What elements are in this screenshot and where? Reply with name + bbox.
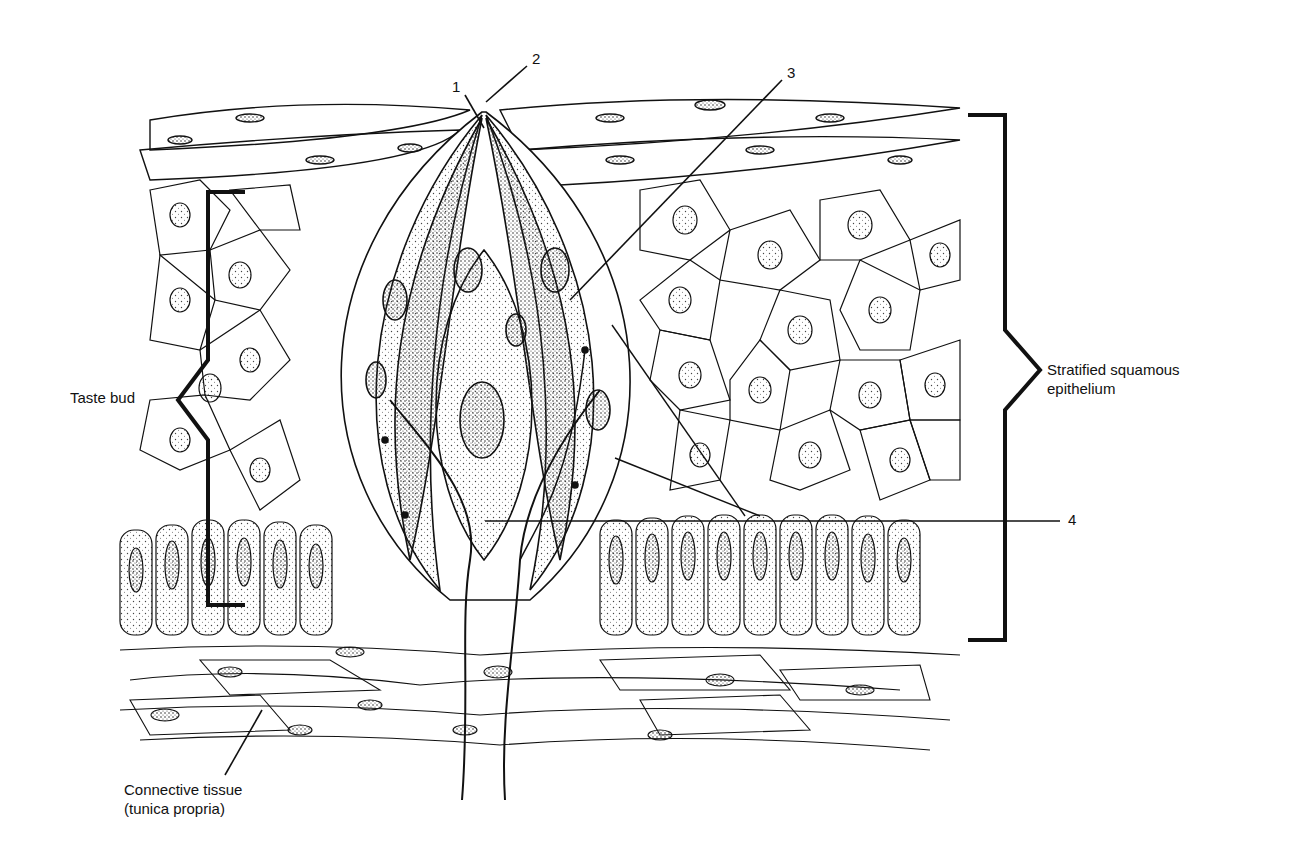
connective-tissue [120, 646, 960, 750]
connective-label-line2: (tunica propria) [124, 799, 242, 818]
label-2: 2 [532, 50, 540, 67]
taste-bud-label: Taste bud [70, 388, 135, 407]
spinous-cells-right [640, 180, 960, 500]
label-4: 4 [1068, 511, 1076, 528]
leader-2 [486, 66, 527, 102]
leader-3 [570, 80, 782, 300]
taste-bud [341, 112, 630, 800]
taste-bud-diagram [0, 0, 1296, 842]
label-3: 3 [787, 64, 795, 81]
spinous-cells-left [140, 180, 300, 510]
connective-tissue-label: Connective tissue (tunica propria) [124, 780, 242, 818]
epithelium-label-line2: epithelium [1047, 379, 1180, 398]
label-1: 1 [452, 78, 460, 95]
epithelium-label: Stratified squamous epithelium [1047, 360, 1180, 398]
epithelium-bracket [968, 115, 1040, 640]
epithelium-label-line1: Stratified squamous [1047, 360, 1180, 379]
leader-connective [225, 710, 262, 775]
connective-label-line1: Connective tissue [124, 780, 242, 799]
